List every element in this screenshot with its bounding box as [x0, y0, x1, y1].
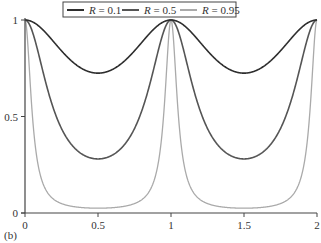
y-tick-label: 1 [13, 14, 19, 26]
x-tick-label: 0 [22, 219, 28, 231]
legend: R = 0.1R = 0.5R = 0.95 [63, 2, 240, 17]
chart: 00.511.52 00.51 R = 0.1R = 0.5R = 0.95 (… [0, 0, 321, 243]
legend-label: R = 0.95 [201, 4, 240, 16]
x-tick-label: 1 [168, 219, 174, 231]
legend-label: R = 0.1 [88, 4, 121, 16]
series-line-0-1 [25, 20, 317, 73]
x-tick-label: 1.5 [237, 219, 251, 231]
x-ticks: 00.511.52 [22, 213, 320, 231]
series-line-0-5 [25, 20, 317, 159]
x-tick-label: 2 [314, 219, 320, 231]
series-line-0-95 [25, 20, 317, 208]
axes: 00.511.52 00.51 [4, 14, 320, 231]
y-tick-label: 0 [13, 207, 19, 219]
x-tick-label: 0.5 [91, 219, 105, 231]
panel-label: (b) [4, 229, 17, 242]
plot-curves [25, 20, 317, 208]
y-ticks: 00.51 [4, 14, 25, 219]
legend-label: R = 0.5 [143, 4, 177, 16]
y-tick-label: 0.5 [4, 111, 18, 123]
